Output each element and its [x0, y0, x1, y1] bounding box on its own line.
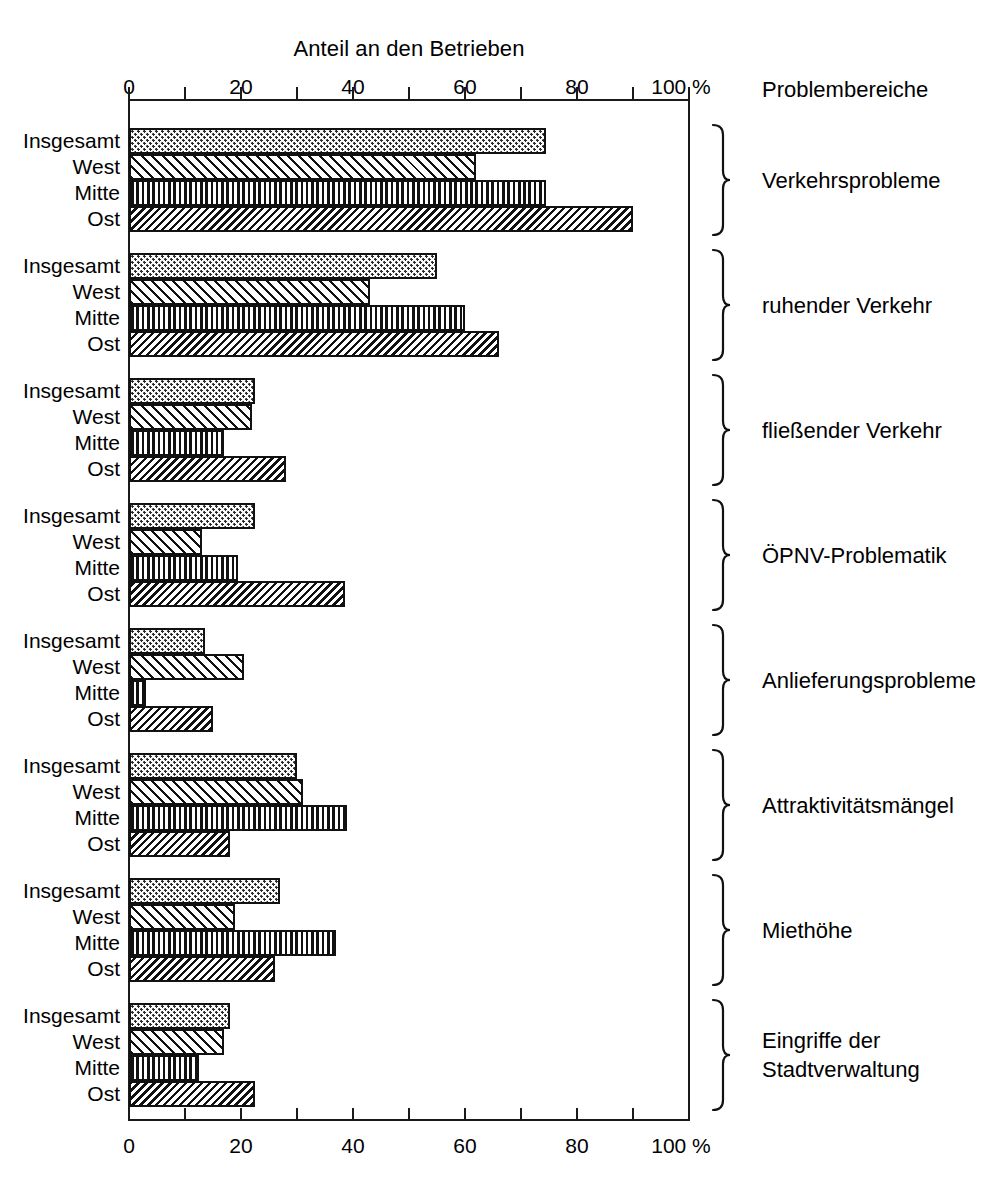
bar[interactable] [129, 1055, 199, 1081]
bar[interactable] [129, 206, 633, 232]
bar-row: Insgesamt [0, 378, 986, 404]
series-row-label: Insgesamt [0, 378, 120, 404]
axis-tick [464, 87, 466, 99]
category-label: ruhender Verkehr [762, 291, 932, 320]
bar[interactable] [129, 331, 499, 357]
series-row-label: Insgesamt [0, 878, 120, 904]
axis-tick-label: 80 [565, 1134, 588, 1158]
series-row-label: Ost [0, 956, 120, 982]
category-label: Miethöhe [762, 916, 853, 945]
bar[interactable] [129, 305, 465, 331]
category-brace [710, 123, 732, 237]
bar[interactable] [129, 581, 345, 607]
bar[interactable] [129, 430, 224, 456]
bar[interactable] [129, 180, 546, 206]
bar-row: Insgesamt [0, 628, 986, 654]
axis-tick [352, 1108, 354, 1120]
bar-row: Insgesamt [0, 253, 986, 279]
bar[interactable] [129, 456, 286, 482]
category-label-line: Stadtverwaltung [762, 1055, 920, 1084]
bar[interactable] [129, 831, 230, 857]
category-label: fließender Verkehr [762, 416, 942, 445]
bar[interactable] [129, 904, 235, 930]
category-brace [710, 498, 732, 612]
bar[interactable] [129, 378, 255, 404]
category-brace [710, 373, 732, 487]
bar[interactable] [129, 680, 146, 706]
axis-tick [688, 87, 690, 99]
series-row-label: Insgesamt [0, 753, 120, 779]
bar[interactable] [129, 529, 202, 555]
category-brace [710, 248, 732, 362]
bar[interactable] [129, 779, 303, 805]
bar[interactable] [129, 753, 297, 779]
bar-chart-figure: Anteil an den Betrieben Problembereiche … [0, 0, 986, 1186]
series-row-label: Ost [0, 581, 120, 607]
bar[interactable] [129, 956, 275, 982]
category-brace [710, 623, 732, 737]
bar-row: Ost [0, 956, 986, 982]
axis-tick-label-max: 100 % [651, 75, 711, 99]
axis-tick [520, 1108, 522, 1120]
series-row-label: Mitte [0, 805, 120, 831]
axis-tick [632, 87, 634, 99]
series-row-label: Mitte [0, 180, 120, 206]
axis-tick [632, 1108, 634, 1120]
axis-tick [576, 87, 578, 99]
series-row-label: West [0, 654, 120, 680]
series-row-label: Ost [0, 706, 120, 732]
bar[interactable] [129, 628, 205, 654]
axis-tick-label: 60 [453, 1134, 476, 1158]
series-row-label: West [0, 1029, 120, 1055]
bar[interactable] [129, 279, 370, 305]
axis-tick [408, 87, 410, 99]
series-row-label: Insgesamt [0, 1003, 120, 1029]
series-row-label: Mitte [0, 930, 120, 956]
category-label: Eingriffe derStadtverwaltung [762, 1026, 920, 1084]
series-row-label: Mitte [0, 1055, 120, 1081]
bar[interactable] [129, 128, 546, 154]
axis-tick-label: 0 [123, 1134, 135, 1158]
bar-row: Insgesamt [0, 878, 986, 904]
bar[interactable] [129, 878, 280, 904]
category-label: Attraktivitätsmängel [762, 791, 954, 820]
axis-tick-label: 20 [229, 1134, 252, 1158]
axis-tick [296, 1108, 298, 1120]
category-label-line: ÖPNV-Problematik [762, 541, 947, 570]
bar[interactable] [129, 1003, 230, 1029]
bar-row: Ost [0, 581, 986, 607]
series-row-label: West [0, 154, 120, 180]
axis-tick-label: 40 [341, 1134, 364, 1158]
bar[interactable] [129, 154, 476, 180]
bar-row: Ost [0, 331, 986, 357]
bar[interactable] [129, 404, 252, 430]
category-brace [710, 748, 732, 862]
series-row-label: Mitte [0, 305, 120, 331]
axis-tick [296, 87, 298, 99]
axis-tick [184, 1108, 186, 1120]
axis-tick [352, 87, 354, 99]
category-label-line: Miethöhe [762, 916, 853, 945]
category-label-line: Verkehrsprobleme [762, 166, 941, 195]
bar[interactable] [129, 706, 213, 732]
bar[interactable] [129, 253, 437, 279]
series-row-label: Insgesamt [0, 503, 120, 529]
category-brace [710, 873, 732, 987]
series-row-label: Ost [0, 831, 120, 857]
series-row-label: Ost [0, 1081, 120, 1107]
bar[interactable] [129, 654, 244, 680]
bar[interactable] [129, 930, 336, 956]
bar[interactable] [129, 503, 255, 529]
bar-row: Ost [0, 706, 986, 732]
series-row-label: West [0, 779, 120, 805]
axis-tick [128, 1108, 130, 1120]
bar[interactable] [129, 1081, 255, 1107]
bar[interactable] [129, 805, 347, 831]
bar[interactable] [129, 555, 238, 581]
category-label-line: ruhender Verkehr [762, 291, 932, 320]
category-brace [710, 998, 732, 1112]
bar-row: Ost [0, 831, 986, 857]
chart-title: Anteil an den Betrieben [128, 36, 690, 62]
bar[interactable] [129, 1029, 224, 1055]
series-row-label: Insgesamt [0, 628, 120, 654]
